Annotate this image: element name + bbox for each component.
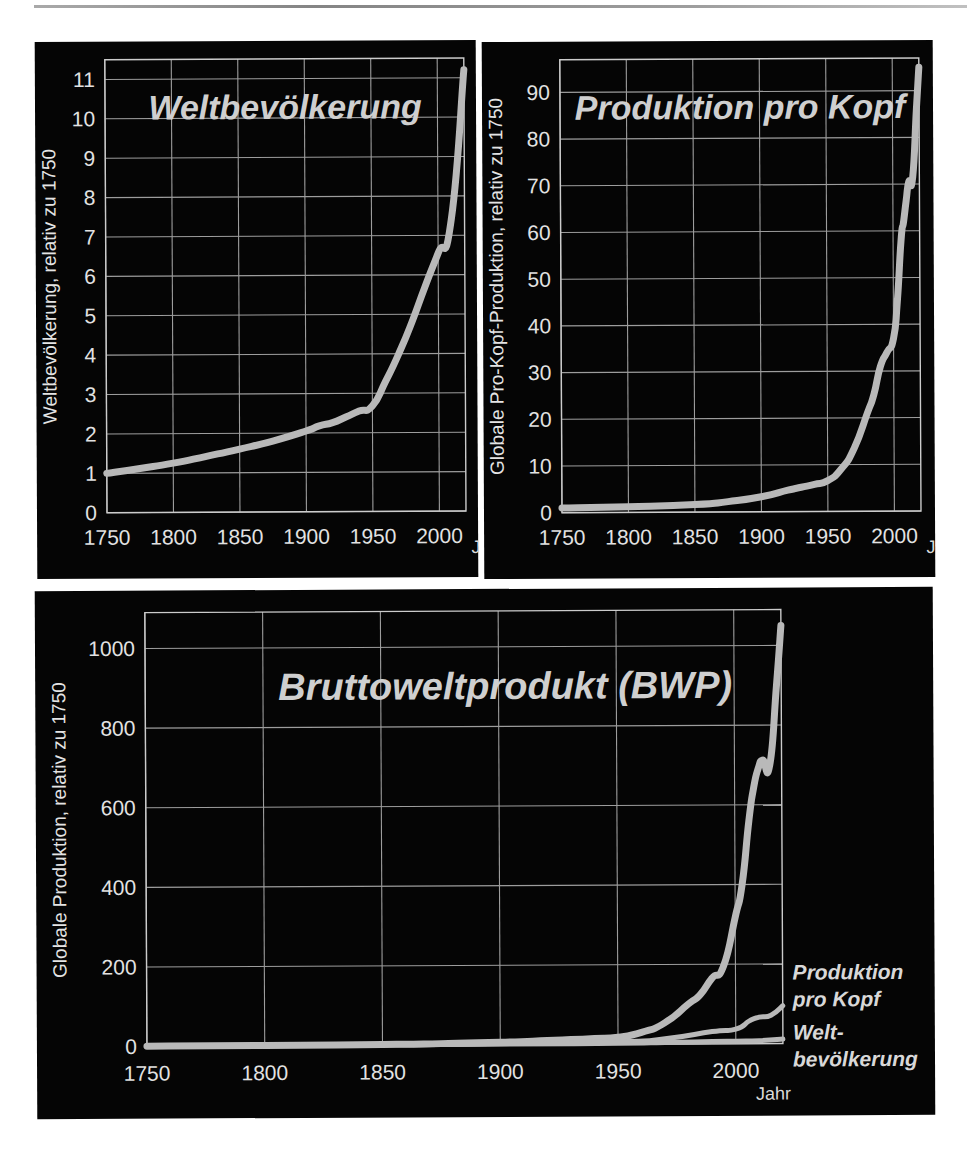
gridline-horizontal: [106, 235, 465, 237]
y-tick-label: 10: [528, 454, 551, 477]
y-axis-ticks: 01234567891011: [71, 68, 97, 524]
y-tick-label: 0: [540, 501, 552, 524]
gridline-vertical: [238, 59, 240, 512]
gridline-horizontal: [106, 393, 465, 395]
y-axis-ticks: 02004006008001000: [88, 637, 137, 1058]
gridline-horizontal: [561, 231, 920, 233]
x-tick-label: 1950: [595, 1059, 642, 1082]
y-tick-label: 9: [84, 147, 96, 170]
gridline-vertical: [371, 58, 373, 511]
top-rule-divider: [34, 5, 967, 8]
y-tick-label: 10: [72, 107, 95, 130]
x-tick-label: 1750: [84, 526, 131, 549]
gridline-horizontal: [560, 184, 919, 186]
gridline-horizontal: [105, 156, 464, 158]
x-tick-label: 1850: [359, 1060, 406, 1083]
series-line-produktion-pro-kopf: [560, 67, 921, 508]
y-tick-label: 5: [84, 304, 96, 327]
gridline-vertical: [892, 58, 894, 511]
gridline-horizontal: [146, 884, 782, 887]
gridline-vertical: [437, 58, 439, 511]
y-tick-label: 90: [527, 81, 550, 104]
note-pro-kopf-line-2: pro Kopf: [792, 987, 883, 1010]
chart-panel-bruttoweltprodukt: 0200400600800100017501800185019001950200…: [35, 587, 936, 1119]
x-tick-label: 1950: [805, 524, 852, 547]
gridline-horizontal: [145, 725, 781, 728]
x-tick-label: 1950: [350, 524, 397, 547]
x-tick-label: 1850: [217, 525, 264, 548]
gridline-vertical: [693, 59, 695, 512]
series-group: [105, 70, 466, 474]
bruttoweltprodukt-chart: 0200400600800100017501800185019001950200…: [35, 587, 936, 1119]
gridline-horizontal: [145, 645, 781, 648]
x-tick-label: 1800: [241, 1061, 288, 1084]
chart-panel-produktion-pro-kopf: 0102030405060708090175018001850190019502…: [482, 40, 936, 579]
y-tick-label: 2: [85, 422, 97, 445]
weltbevoelkerung-chart: 01234567891011175018001850190019502000Ja…: [35, 40, 479, 579]
x-tick-label: 1900: [477, 1060, 524, 1083]
gridline-horizontal: [106, 275, 465, 277]
gridline-horizontal: [146, 805, 782, 808]
y-tick-label: 30: [528, 361, 551, 384]
y-tick-label: 4: [84, 344, 96, 367]
gridline-horizontal: [560, 137, 919, 139]
gridline-vertical: [734, 610, 736, 1044]
y-tick-label: 50: [527, 268, 550, 291]
y-tick-label: 20: [528, 408, 551, 431]
figure-page: 01234567891011175018001850190019502000Ja…: [0, 0, 973, 1163]
gridline-vertical: [263, 612, 265, 1046]
y-axis-ticks: 0102030405060708090: [527, 81, 553, 524]
chart-title: Weltbevölkerung: [148, 87, 422, 126]
y-tick-label: 7: [84, 225, 96, 248]
x-tick-label: 2000: [871, 524, 918, 547]
chart-panel-weltbevoelkerung: 01234567891011175018001850190019502000Ja…: [35, 40, 479, 579]
y-axis-label: Globale Produktion, relativ zu 1750: [48, 682, 70, 978]
gridline-vertical: [304, 59, 306, 512]
x-tick-label: 1800: [605, 525, 652, 548]
y-tick-label: 400: [101, 876, 136, 899]
gridline-horizontal: [105, 196, 464, 198]
gridline-horizontal: [562, 464, 921, 466]
y-tick-label: 8: [84, 186, 96, 209]
y-axis-label: Globale Pro-Kopf-Produktion, relativ zu …: [485, 98, 508, 475]
x-tick-label: 1900: [283, 525, 330, 548]
y-tick-label: 1000: [88, 637, 135, 660]
x-axis-label: Jahr: [756, 1084, 791, 1104]
gridline-horizontal: [561, 371, 920, 373]
y-tick-label: 800: [100, 717, 135, 740]
y-tick-label: 70: [527, 174, 550, 197]
x-axis-ticks: 175018001850190019502000: [539, 524, 918, 549]
x-tick-label: 1750: [124, 1062, 171, 1085]
y-tick-label: 0: [85, 501, 97, 524]
x-tick-label: 1750: [539, 526, 586, 549]
y-tick-label: 600: [101, 796, 136, 819]
gridline-vertical: [626, 59, 628, 512]
series-line-weltbev-lkerung: [105, 70, 466, 474]
gridline-horizontal: [105, 78, 464, 80]
y-axis-label: Weltbevölkerung, relativ zu 1750: [38, 149, 60, 424]
gridline-horizontal: [561, 277, 920, 279]
x-tick-label: 1850: [672, 525, 719, 548]
gridline-horizontal: [107, 472, 466, 474]
x-axis-label: Jahr: [927, 537, 936, 557]
note-pro-kopf-line-1: Produktion: [793, 960, 904, 984]
gridline-vertical: [826, 58, 828, 511]
x-axis-ticks: 175018001850190019502000: [124, 1059, 760, 1085]
y-tick-label: 200: [101, 955, 136, 978]
chart-title: Bruttoweltprodukt (BWP): [278, 664, 732, 708]
x-axis-ticks: 175018001850190019502000: [84, 524, 463, 549]
series-group: [560, 67, 921, 508]
note-weltbevoelkerung-line-1: Welt-: [793, 1020, 844, 1043]
gridline-horizontal: [106, 353, 465, 355]
y-tick-label: 60: [527, 221, 550, 244]
y-tick-label: 0: [125, 1035, 137, 1058]
gridline-vertical: [759, 59, 761, 512]
x-tick-label: 2000: [416, 524, 463, 547]
y-tick-label: 11: [73, 68, 95, 91]
note-weltbevoelkerung-line-2: bevölkerung: [793, 1047, 918, 1071]
y-tick-label: 3: [85, 383, 97, 406]
gridline-vertical: [171, 59, 173, 512]
x-tick-label: 2000: [713, 1059, 760, 1082]
gridline-horizontal: [561, 324, 920, 326]
y-tick-label: 40: [528, 314, 551, 337]
